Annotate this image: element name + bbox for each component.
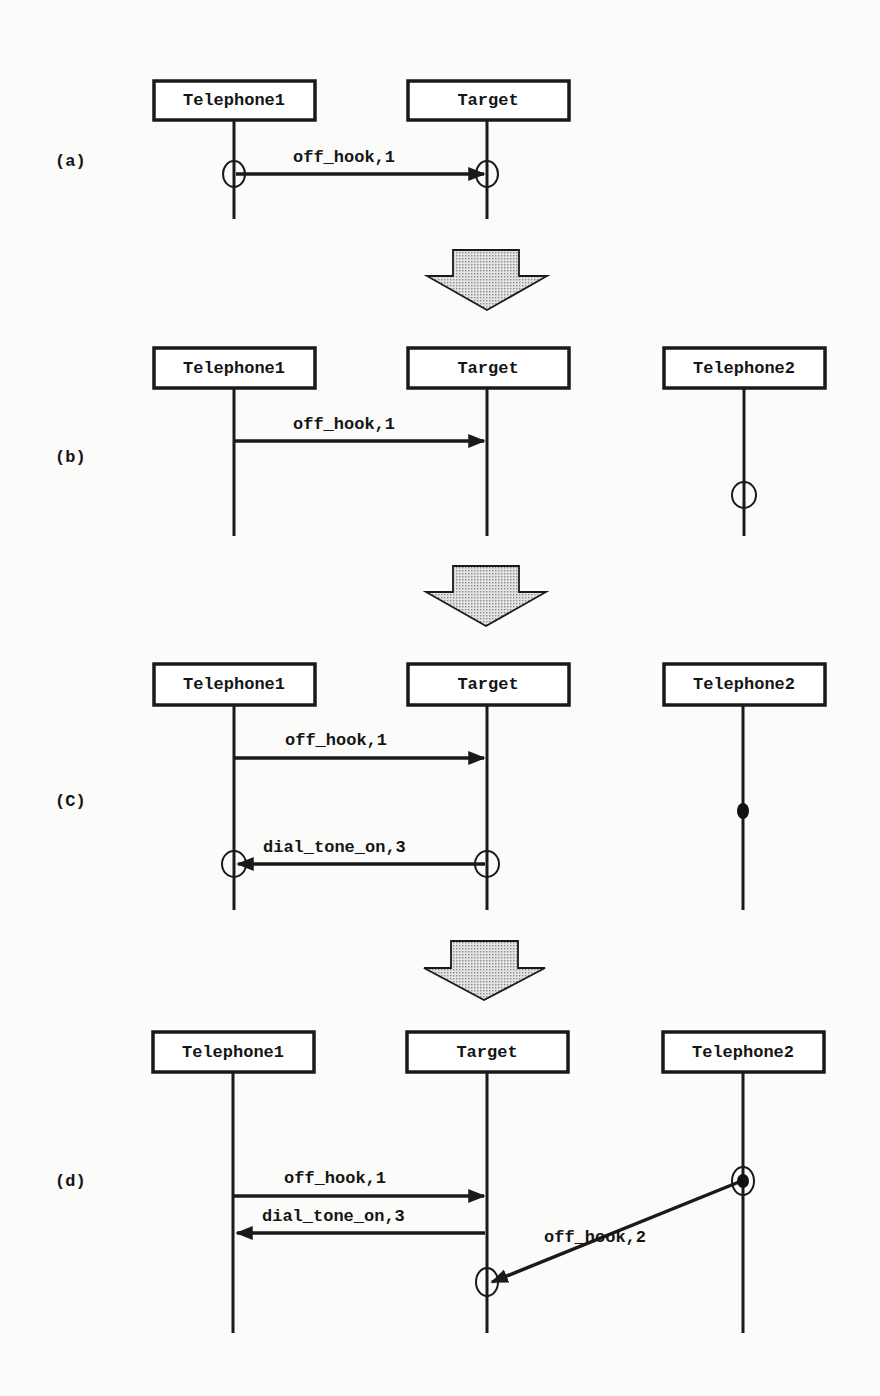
transition-arrow-icon bbox=[427, 250, 547, 310]
panel-label-d: (d) bbox=[55, 1172, 86, 1191]
transition-arrow-icon bbox=[424, 941, 545, 1000]
panel-label-c: (C) bbox=[55, 792, 86, 811]
current-state-dot-icon bbox=[737, 1174, 749, 1188]
message-label: off_hook,1 bbox=[293, 415, 395, 434]
panel-a: (a) Telephone1 Target off_hook,1 bbox=[55, 81, 569, 219]
object-box-telephone2: Telephone2 bbox=[664, 664, 825, 705]
message-off-hook-1: off_hook,1 bbox=[234, 415, 484, 441]
message-off-hook-1: off_hook,1 bbox=[234, 731, 484, 758]
object-label: Target bbox=[456, 1043, 517, 1062]
object-label: Telephone1 bbox=[183, 91, 285, 110]
object-label: Target bbox=[457, 675, 518, 694]
transition-arrow-icon bbox=[426, 566, 546, 626]
message-dial-tone-on-3: dial_tone_on,3 bbox=[238, 838, 485, 864]
message-off-hook-1: off_hook,1 bbox=[236, 148, 484, 174]
message-dial-tone-on-3: dial_tone_on,3 bbox=[237, 1207, 485, 1233]
message-label: off_hook,1 bbox=[285, 731, 387, 750]
object-box-target: Target bbox=[408, 81, 569, 120]
message-label: off_hook,1 bbox=[284, 1169, 386, 1188]
panel-d: (d) Telephone1 Target Telephone2 off_hoo… bbox=[55, 1032, 824, 1333]
panel-b: (b) Telephone1 Target Telephone2 off_hoo… bbox=[55, 348, 825, 536]
object-box-telephone1: Telephone1 bbox=[154, 664, 315, 705]
object-label: Target bbox=[457, 91, 518, 110]
object-box-telephone1: Telephone1 bbox=[153, 1032, 314, 1072]
object-box-target: Target bbox=[408, 348, 569, 388]
message-label: dial_tone_on,3 bbox=[263, 838, 406, 857]
message-label: off_hook,1 bbox=[293, 148, 395, 167]
object-label: Telephone2 bbox=[693, 675, 795, 694]
object-box-target: Target bbox=[408, 664, 569, 705]
panel-c: (C) Telephone1 Target Telephone2 off_hoo… bbox=[55, 664, 825, 910]
object-label: Telephone2 bbox=[693, 359, 795, 378]
object-box-target: Target bbox=[407, 1032, 568, 1072]
message-off-hook-1: off_hook,1 bbox=[233, 1169, 484, 1196]
object-label: Target bbox=[457, 359, 518, 378]
message-off-hook-2: off_hook,2 bbox=[492, 1182, 739, 1282]
object-label: Telephone2 bbox=[692, 1043, 794, 1062]
object-label: Telephone1 bbox=[182, 1043, 284, 1062]
message-label: dial_tone_on,3 bbox=[262, 1207, 405, 1226]
object-label: Telephone1 bbox=[183, 675, 285, 694]
object-label: Telephone1 bbox=[183, 359, 285, 378]
object-box-telephone2: Telephone2 bbox=[664, 348, 825, 388]
message-label: off_hook,2 bbox=[544, 1228, 646, 1247]
object-box-telephone1: Telephone1 bbox=[154, 81, 315, 120]
current-state-dot-icon bbox=[737, 803, 749, 819]
object-box-telephone1: Telephone1 bbox=[154, 348, 315, 388]
panel-label-a: (a) bbox=[55, 152, 86, 171]
sequence-diagram-figure: (a) Telephone1 Target off_hook,1 (b) Tel… bbox=[0, 0, 880, 1396]
object-box-telephone2: Telephone2 bbox=[663, 1032, 824, 1072]
panel-label-b: (b) bbox=[55, 448, 86, 467]
